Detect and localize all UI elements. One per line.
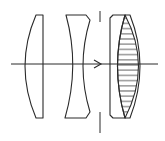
lens-diagram	[0, 0, 165, 141]
lens-element-3b	[110, 15, 150, 118]
lens-element-2	[65, 15, 90, 118]
lens-element-1	[25, 15, 43, 118]
